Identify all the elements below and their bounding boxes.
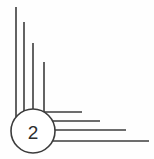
diagram-canvas: 2 [0,0,154,159]
diagram-svg: 2 [0,0,154,159]
node-label: 2 [28,122,39,143]
